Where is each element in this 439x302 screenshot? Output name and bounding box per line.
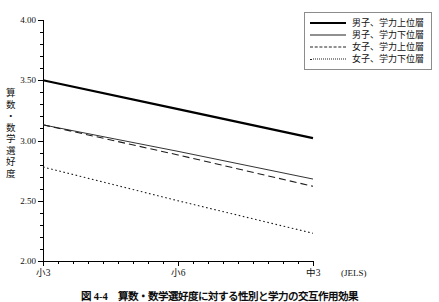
legend-item-boys-high: 男子、学力上位層 — [309, 17, 428, 29]
legend-item-girls-high: 女子、学力上位層 — [309, 41, 428, 53]
y-axis-title-char: ・ — [6, 111, 16, 121]
legend-swatch-dashed-icon — [309, 42, 347, 52]
y-axis-title-char: 学 — [6, 134, 16, 144]
figure-caption: 図 4-4 算数・数学選好度に対する性別と学力の交互作用効果 — [0, 291, 439, 302]
y-axis-title-char: 好 — [6, 157, 16, 167]
y-axis-title-char: 度 — [6, 169, 16, 179]
y-tick-label: 2.50 — [20, 196, 36, 205]
y-axis-title: 算数・数学選好度 — [4, 88, 17, 180]
legend-label: 男子、学力下位層 — [352, 30, 424, 40]
y-axis-title-char: 選 — [6, 146, 16, 156]
y-axis-title-char: 数 — [6, 123, 16, 133]
y-axis-title-char: 数 — [6, 100, 16, 110]
series-line — [43, 80, 313, 138]
series-line — [43, 125, 313, 179]
legend-swatch-thin-solid-icon — [309, 30, 347, 40]
series-lines — [43, 20, 314, 262]
y-tick-label: 2.00 — [20, 257, 36, 266]
source-note: (JELS) — [341, 268, 367, 278]
series-line — [43, 125, 313, 186]
legend: 男子、学力上位層 男子、学力下位層 女子、学力上位層 女子、学力下位層 — [304, 12, 432, 70]
y-axis-title-char: 算 — [6, 88, 16, 98]
x-tick-label: 小3 — [36, 268, 51, 278]
legend-label: 男子、学力上位層 — [352, 18, 424, 28]
legend-label: 女子、学力上位層 — [352, 42, 424, 52]
legend-swatch-dotted-icon — [309, 54, 347, 64]
y-tick-label: 3.50 — [20, 76, 36, 85]
y-tick-label: 3.00 — [20, 136, 36, 145]
legend-item-girls-low: 女子、学力下位層 — [309, 53, 428, 65]
x-tick-label: 中3 — [306, 268, 321, 278]
legend-item-boys-low: 男子、学力下位層 — [309, 29, 428, 41]
y-tick-label: 4.00 — [20, 16, 36, 25]
x-tick-label: 小6 — [171, 268, 186, 278]
legend-label: 女子、学力下位層 — [352, 54, 424, 64]
figure-container: 算数・数学選好度 4.003.503.002.502.00 小3小6中3 (JE… — [0, 0, 439, 302]
legend-swatch-thick-solid-icon — [309, 18, 347, 28]
plot-area: 4.003.503.002.502.00 小3小6中3 — [43, 20, 313, 262]
